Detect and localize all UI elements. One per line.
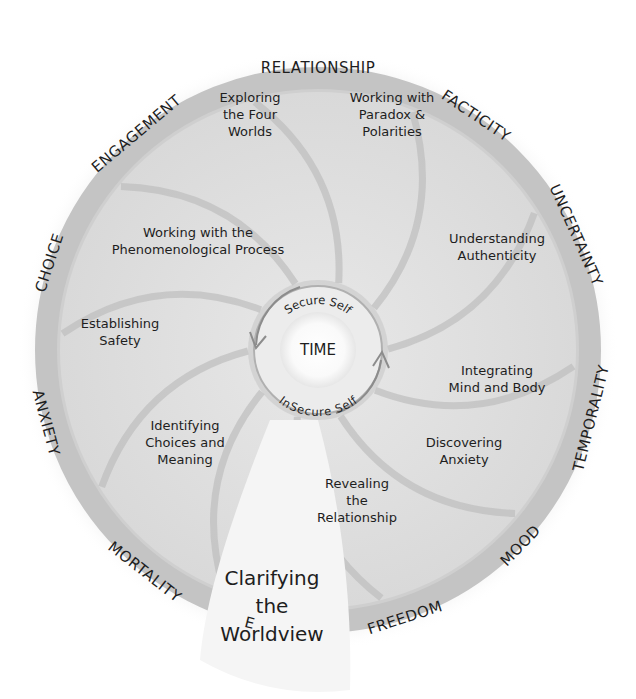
segment-line: Authenticity xyxy=(458,248,537,263)
segment-line: Clarifying xyxy=(224,566,319,590)
segment-line: Worlds xyxy=(228,124,272,139)
segment-line: the xyxy=(346,493,367,508)
segment-line: Paradox & xyxy=(359,107,425,122)
segment-line: the Four xyxy=(223,107,278,122)
segment-line: Exploring xyxy=(219,90,280,105)
segment-line: Integrating xyxy=(461,363,533,378)
segment-line: Phenomenological Process xyxy=(112,242,285,257)
segment-line: Choices and xyxy=(145,435,224,450)
segment-four-worlds: Exploringthe FourWorlds xyxy=(219,90,280,139)
segment-line: Anxiety xyxy=(439,452,489,467)
segment-paradox: Working withParadox &Polarities xyxy=(350,90,435,139)
segment-line: Mind and Body xyxy=(449,380,546,395)
segment-line: Safety xyxy=(99,333,141,348)
segment-line: Worldview xyxy=(220,622,323,646)
wheel-svg: RELATIONSHIPFACTICITYUNCERTAINTYTEMPORAL… xyxy=(0,0,636,699)
segment-line: Establishing xyxy=(81,316,160,331)
segment-line: Understanding xyxy=(449,231,545,246)
segment-line: Identifying xyxy=(150,418,219,433)
segment-line: Working with xyxy=(350,90,435,105)
segment-line: Polarities xyxy=(362,124,422,139)
ring-label-relationship: RELATIONSHIP xyxy=(261,59,376,77)
segment-line: Working with the xyxy=(143,225,253,240)
segment-line: the xyxy=(256,594,289,618)
segment-line: Revealing xyxy=(325,476,389,491)
segment-line: Relationship xyxy=(317,510,397,525)
segment-line: Meaning xyxy=(157,452,213,467)
hub-center-label: TIME xyxy=(299,341,336,359)
segment-line: Discovering xyxy=(426,435,503,450)
wheel-diagram: RELATIONSHIPFACTICITYUNCERTAINTYTEMPORAL… xyxy=(0,0,636,699)
